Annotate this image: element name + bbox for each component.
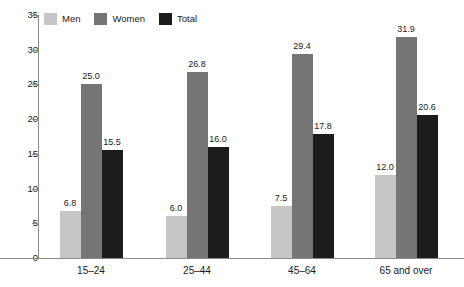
legend-label-total: Total xyxy=(177,14,197,24)
y-axis-tick: 0 xyxy=(0,258,38,259)
bar-group-bars: 7.529.417.8 xyxy=(271,15,334,258)
y-axis-tick: 15 xyxy=(0,154,38,155)
bar-total: 15.5 xyxy=(102,150,123,258)
legend-swatch-men-icon xyxy=(44,13,57,25)
legend-swatch-total-icon xyxy=(159,13,172,25)
bar-value-label: 25.0 xyxy=(82,72,100,81)
bar-men: 12.0 xyxy=(375,175,396,258)
bar-women: 31.9 xyxy=(396,37,417,258)
bar-value-label: 6.0 xyxy=(170,204,183,213)
y-axis-tick: 35 xyxy=(0,15,38,16)
x-axis-category-label: 15–24 xyxy=(77,266,105,276)
bar-group: 12.031.920.6 xyxy=(375,15,438,258)
y-axis-tick-mark xyxy=(32,223,38,224)
legend-label-women: Women xyxy=(112,14,145,24)
bar-group-bars: 6.026.816.0 xyxy=(166,15,229,258)
y-axis-tick-mark xyxy=(32,119,38,120)
bar-chart: Men Women Total 35302520151050 6.825.015… xyxy=(0,0,464,287)
y-axis-tick-mark xyxy=(32,50,38,51)
bar-value-label: 16.0 xyxy=(209,135,227,144)
bar-value-label: 15.5 xyxy=(103,138,121,147)
y-axis-tick: 30 xyxy=(0,50,38,51)
bar-value-label: 7.5 xyxy=(275,194,288,203)
chart-legend: Men Women Total xyxy=(44,13,197,25)
bar-group: 6.825.015.5 xyxy=(60,15,123,258)
x-axis-category-label: 25–44 xyxy=(183,266,211,276)
y-axis-tick-mark xyxy=(32,258,38,259)
y-axis-tick: 25 xyxy=(0,84,38,85)
y-axis-tick-mark xyxy=(32,154,38,155)
bar-women: 26.8 xyxy=(187,72,208,258)
x-axis-category-label: 45–64 xyxy=(288,266,316,276)
y-axis-tick: 5 xyxy=(0,223,38,224)
bar-men: 6.0 xyxy=(166,216,187,258)
bar-total: 20.6 xyxy=(417,115,438,258)
legend-label-men: Men xyxy=(62,14,80,24)
plot-area: 6.825.015.56.026.816.07.529.417.812.031.… xyxy=(39,15,464,258)
y-axis-tick: 20 xyxy=(0,119,38,120)
y-axis-tick-mark xyxy=(32,189,38,190)
bar-group: 6.026.816.0 xyxy=(166,15,229,258)
bar-men: 6.8 xyxy=(60,211,81,258)
bar-women: 25.0 xyxy=(81,84,102,258)
bar-value-label: 17.8 xyxy=(314,122,332,131)
legend-item-men: Men xyxy=(44,13,80,25)
bar-group-bars: 12.031.920.6 xyxy=(375,15,438,258)
bar-value-label: 20.6 xyxy=(418,103,436,112)
y-axis-tick-mark xyxy=(32,84,38,85)
bar-value-label: 29.4 xyxy=(293,42,311,51)
bar-value-label: 12.0 xyxy=(376,163,394,172)
y-axis-tick-mark xyxy=(32,15,38,16)
bar-value-label: 31.9 xyxy=(397,25,415,34)
x-axis-line xyxy=(0,258,464,259)
x-axis-category-label: 65 and over xyxy=(380,266,433,276)
bar-value-label: 26.8 xyxy=(188,60,206,69)
bar-group: 7.529.417.8 xyxy=(271,15,334,258)
bar-total: 16.0 xyxy=(208,147,229,258)
y-axis-tick: 10 xyxy=(0,189,38,190)
bar-group-bars: 6.825.015.5 xyxy=(60,15,123,258)
legend-item-women: Women xyxy=(94,13,145,25)
bar-value-label: 6.8 xyxy=(64,199,77,208)
bar-women: 29.4 xyxy=(292,54,313,258)
bar-total: 17.8 xyxy=(313,134,334,258)
legend-swatch-women-icon xyxy=(94,13,107,25)
legend-item-total: Total xyxy=(159,13,197,25)
bar-men: 7.5 xyxy=(271,206,292,258)
